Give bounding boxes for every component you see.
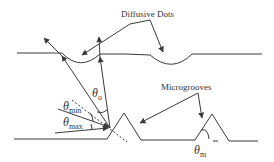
diffusive-dots-leader-left [82,20,150,55]
theta-o-subscript: o [98,93,102,102]
arc-theta-m [201,130,209,139]
diagram-graphic [0,0,274,162]
microgrooves-leader-right [198,93,202,118]
theta-m-subscript: m [200,150,206,159]
arc-theta-min [90,113,93,121]
microgrooves-leader-left [140,93,198,123]
light-guide-diagram: Diffusive Dots Microgrooves θo θmin θmax… [0,0,274,162]
microgrooves-label: Microgrooves [161,83,212,92]
ray-out-right [99,37,100,57]
theta-max-subscript: max [69,122,83,131]
top-surface [17,53,262,64]
theta-m-label: θm [194,144,206,156]
bottom-surface [14,113,258,141]
theta-min-subscript: min [69,106,81,115]
theta-max-label: θmax [63,116,83,128]
theta-min-label: θmin [63,100,81,112]
theta-o-label: θo [92,87,102,99]
diffusive-dots-label: Diffusive Dots [121,10,174,19]
diffusive-dots-leader-right [150,20,163,52]
